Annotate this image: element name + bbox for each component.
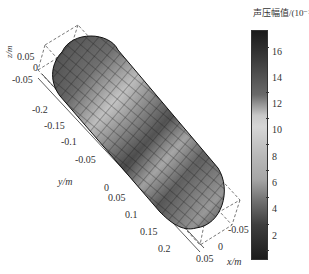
colorbar-label: 8: [272, 151, 277, 162]
colorbar-tick: [266, 250, 269, 251]
x-tick: 0: [218, 242, 223, 252]
y-tick: 0.1: [125, 210, 138, 220]
y-axis-label: y/m: [58, 176, 72, 187]
x-tick: -0.05: [228, 225, 249, 235]
colorbar-tick: [266, 224, 269, 225]
y-tick: -0.05: [75, 155, 96, 165]
z-axis-label: z/m: [4, 45, 14, 58]
capsule-surface: [53, 36, 225, 229]
y-tick: 0.2: [158, 244, 171, 254]
colorbar: [251, 30, 268, 260]
colorbar-tick: [266, 170, 269, 171]
colorbar-tick: [266, 197, 269, 198]
z-tick: 0: [33, 63, 38, 73]
colorbar-tick: [266, 92, 269, 93]
y-tick: 0.05: [108, 193, 126, 203]
colorbar-tick: [266, 118, 269, 119]
colorbar-title: 声压幅值/(10⁻³Pa): [253, 6, 309, 19]
y-tick: -0.2: [32, 105, 48, 115]
colorbar-label: 6: [272, 177, 277, 188]
x-axis-label: x/m: [227, 256, 241, 267]
z-tick: -0.05: [12, 75, 33, 85]
z-tick: 0.05: [17, 52, 35, 62]
colorbar-tick: [266, 47, 269, 48]
y-tick: 0.15: [140, 227, 158, 237]
colorbar-label: 10: [272, 124, 282, 135]
y-tick: -0.1: [61, 137, 77, 147]
colorbar-label: 4: [272, 203, 277, 214]
surface-plot: [0, 0, 250, 274]
colorbar-tick: [266, 144, 269, 145]
colorbar-label: 14: [272, 72, 282, 83]
colorbar-label: 2: [272, 230, 277, 241]
y-tick: -0.15: [44, 121, 65, 131]
colorbar-label: 12: [272, 98, 282, 109]
x-tick: 0.05: [196, 254, 214, 264]
colorbar-label: 16: [272, 46, 282, 57]
